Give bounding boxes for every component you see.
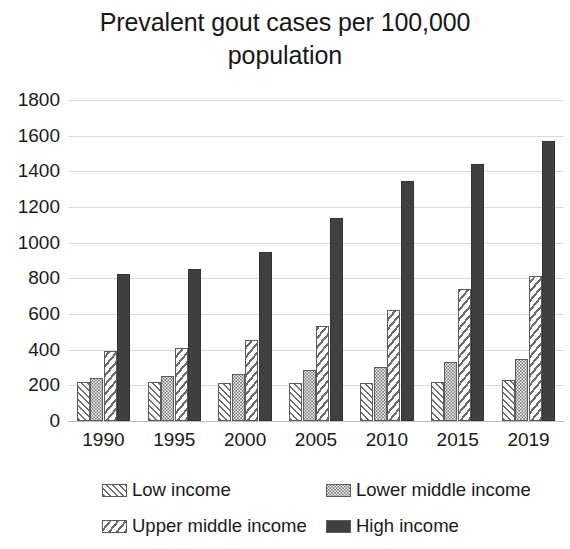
legend-label-high-income: High income <box>356 516 459 536</box>
y-tick-label-1800: 1800 <box>0 90 60 109</box>
y-tick-label-800: 800 <box>0 268 60 287</box>
y-tick-label-200: 200 <box>0 375 60 394</box>
legend-item-upper-middle-income[interactable]: Upper middle income <box>102 514 307 538</box>
bar-group-1990 <box>68 100 139 421</box>
chart-title: Prevalent gout cases per 100,000 populat… <box>0 6 570 72</box>
x-axis-tick-labels: 1990199520002005201020152019 <box>68 428 564 454</box>
bar-1995-low-income[interactable] <box>148 382 161 421</box>
x-tick-label-2005: 2005 <box>281 428 352 452</box>
bar-2015-lower-middle-income[interactable] <box>444 362 457 421</box>
bar-2010-upper-middle-income[interactable] <box>387 310 400 421</box>
legend-swatch-high-income-icon <box>326 520 351 533</box>
x-tick-label-1990: 1990 <box>68 428 139 452</box>
bar-2015-high-income[interactable] <box>471 164 484 421</box>
bar-2015-upper-middle-income[interactable] <box>458 289 471 421</box>
bar-group-2019 <box>493 100 564 421</box>
x-tick-label-2010: 2010 <box>351 428 422 452</box>
y-tick-label-1400: 1400 <box>0 161 60 180</box>
x-tick-label-2015: 2015 <box>422 428 493 452</box>
bar-2005-high-income[interactable] <box>330 218 343 421</box>
bars-layer <box>68 100 564 421</box>
chart-title-line-2: population <box>0 39 570 72</box>
bar-2010-low-income[interactable] <box>360 383 373 421</box>
bar-2010-high-income[interactable] <box>401 181 414 421</box>
x-tick-label-2000: 2000 <box>210 428 281 452</box>
bar-2010-lower-middle-income[interactable] <box>374 367 387 421</box>
legend-item-low-income[interactable]: Low income <box>102 478 231 502</box>
bar-1990-low-income[interactable] <box>77 382 90 421</box>
bar-2000-high-income[interactable] <box>259 252 272 421</box>
bar-2000-upper-middle-income[interactable] <box>245 340 258 421</box>
x-tick-label-2019: 2019 <box>493 428 564 452</box>
legend-label-upper-middle-income: Upper middle income <box>132 516 307 536</box>
bar-group-2005 <box>281 100 352 421</box>
legend-swatch-lower-middle-income-icon <box>326 484 351 497</box>
chart-title-line-1: Prevalent gout cases per 100,000 <box>0 6 570 39</box>
y-axis-tick-labels: 020040060080010001200140016001800 <box>0 100 60 421</box>
bar-2019-low-income[interactable] <box>502 380 515 421</box>
y-tick-label-400: 400 <box>0 340 60 359</box>
bar-1995-lower-middle-income[interactable] <box>161 376 174 421</box>
bar-1995-high-income[interactable] <box>188 269 201 421</box>
legend-swatch-low-income-icon <box>102 484 127 497</box>
bar-2000-low-income[interactable] <box>218 383 231 421</box>
y-tick-label-0: 0 <box>0 411 60 430</box>
bar-2005-low-income[interactable] <box>289 383 302 421</box>
bar-2005-lower-middle-income[interactable] <box>303 370 316 421</box>
bar-2000-lower-middle-income[interactable] <box>232 374 245 421</box>
x-tick-label-1995: 1995 <box>139 428 210 452</box>
bar-group-1995 <box>139 100 210 421</box>
bar-2015-low-income[interactable] <box>431 382 444 421</box>
y-tick-label-600: 600 <box>0 304 60 323</box>
y-tick-label-1000: 1000 <box>0 233 60 252</box>
y-tick-label-1600: 1600 <box>0 126 60 145</box>
gridline-0 <box>68 421 564 422</box>
bar-2019-lower-middle-income[interactable] <box>515 359 528 421</box>
bar-2019-high-income[interactable] <box>542 141 555 421</box>
legend-label-low-income: Low income <box>132 480 231 500</box>
legend-swatch-upper-middle-income-icon <box>102 520 127 533</box>
bar-group-2015 <box>422 100 493 421</box>
legend-item-high-income[interactable]: High income <box>326 514 459 538</box>
bar-2005-upper-middle-income[interactable] <box>316 326 329 421</box>
chart-legend: Low income Lower middle income Upper mid… <box>78 478 548 544</box>
bar-group-2000 <box>210 100 281 421</box>
y-tick-label-1200: 1200 <box>0 197 60 216</box>
bar-1995-upper-middle-income[interactable] <box>175 348 188 421</box>
bar-2019-upper-middle-income[interactable] <box>529 276 542 421</box>
bar-group-2010 <box>351 100 422 421</box>
bar-1990-high-income[interactable] <box>117 274 130 421</box>
bar-1990-upper-middle-income[interactable] <box>104 351 117 421</box>
legend-item-lower-middle-income[interactable]: Lower middle income <box>326 478 531 502</box>
legend-label-lower-middle-income: Lower middle income <box>356 480 531 500</box>
bar-1990-lower-middle-income[interactable] <box>90 378 103 421</box>
